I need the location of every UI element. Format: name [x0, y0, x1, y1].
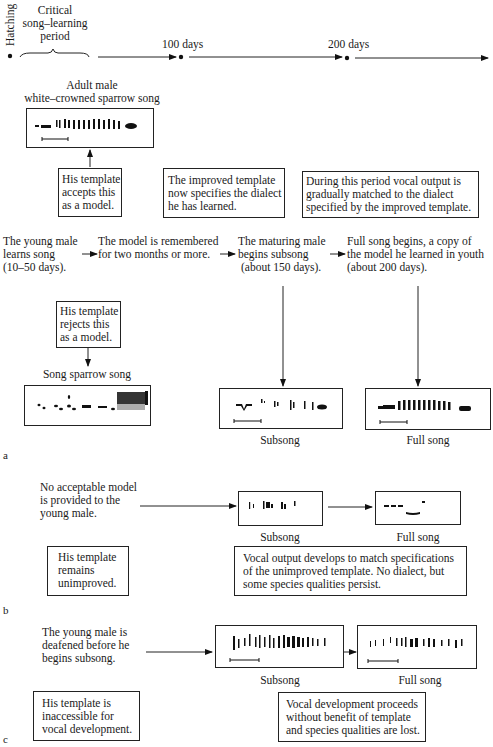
vocal-development-box-c: Vocal development proceeds without benef…	[278, 692, 426, 742]
panel-label-a: a	[3, 449, 8, 462]
fullsong-caption-c: Full song	[380, 674, 460, 687]
box-text-line: rejects this	[60, 318, 118, 331]
stage-learning: The young male learns song (10–50 days).	[3, 235, 78, 274]
adult-song-title-line: Adult male	[12, 79, 172, 92]
subsong-spectrogram-a	[219, 388, 343, 429]
fullsong-caption-b: Full song	[378, 531, 458, 544]
fullsong-caption-a: Full song	[388, 434, 468, 447]
intro-line: is provided to the	[40, 494, 137, 507]
hatching-label: Hatching	[4, 4, 17, 46]
song-sparrow-spectrogram	[24, 385, 151, 426]
song-sparrow-title: Song sparrow song	[22, 368, 152, 381]
adult-song-title-line: white–crowned sparrow song	[12, 92, 172, 105]
critical-period-line: song–learning	[20, 17, 90, 30]
stage-full-song: Full song begins, a copy of the model he…	[347, 235, 484, 274]
box-text-line: without benefit of template	[286, 711, 420, 724]
box-text-line: remains	[58, 564, 116, 577]
box-text-line: His template is	[42, 697, 132, 710]
box-text-line: of the unimproved template. No dialect, …	[243, 565, 454, 578]
box-text-line: some species qualities persist.	[243, 578, 454, 591]
box-text-line: Vocal output develops to match specifica…	[243, 552, 454, 565]
spectrogram-subsong-a	[220, 389, 342, 428]
spectrogram-fullsong-c	[358, 626, 476, 668]
stage-text-line: The young male	[3, 235, 78, 248]
stage-text-line: (10–50 days).	[3, 261, 78, 274]
intro-line: No acceptable model	[40, 481, 137, 494]
panel-c-intro: The young male is deafened before he beg…	[42, 626, 129, 665]
panel-label-c: c	[3, 733, 8, 746]
fullsong-spectrogram-c	[357, 625, 477, 669]
critical-period-line: Critical	[20, 4, 90, 17]
critical-period-line: period	[20, 30, 90, 43]
fullsong-spectrogram-a	[365, 388, 491, 430]
subsong-caption-c: Subsong	[240, 674, 320, 687]
vocal-output-box-b: Vocal output develops to match specifica…	[234, 546, 467, 596]
box-text-line: as a model.	[60, 331, 118, 344]
box-text-line: During this period vocal output is	[306, 175, 471, 188]
box-text-line: gradually matched to the dialect	[306, 188, 471, 201]
box-text-line: His template	[62, 173, 120, 186]
subsong-spectrogram-c	[215, 625, 344, 668]
intro-line: begins subsong.	[42, 652, 129, 665]
spectrogram-song-sparrow	[25, 386, 150, 425]
stage-text-line: for two months or more.	[98, 248, 218, 261]
spectrogram-fullsong-a	[366, 389, 490, 429]
improved-template-box: The improved template now specifies the …	[163, 168, 285, 218]
subsong-caption-a: Subsong	[240, 434, 320, 447]
box-text-line: and species qualities are lost.	[286, 724, 420, 737]
box-text-line: His template	[60, 305, 118, 318]
box-text-line: Vocal development proceeds	[286, 698, 420, 711]
intro-line: young male.	[40, 507, 137, 520]
stage-text-line: the model he learned in youth	[347, 248, 484, 261]
spectrogram-fullsong-b	[376, 492, 460, 524]
day-100-label: 100 days	[162, 38, 203, 51]
fullsong-spectrogram-b	[375, 491, 461, 525]
panel-label-b: b	[3, 604, 9, 617]
adult-song-spectrogram	[26, 108, 154, 148]
box-text-line: The improved template	[168, 174, 281, 187]
stage-text-line: (about 200 days).	[347, 261, 484, 274]
box-text-line: specified by the improved template.	[306, 201, 471, 214]
template-unimproved-box: His template remains unimproved.	[47, 546, 129, 596]
stage-text-line: (about 150 days).	[238, 261, 326, 274]
stage-remembered: The model is remembered for two months o…	[98, 235, 218, 261]
template-rejects-box: His template rejects this as a model.	[56, 301, 121, 348]
box-text-line: unimproved.	[58, 577, 116, 590]
spectrogram-adult	[27, 109, 153, 147]
panel-b-intro: No acceptable model is provided to the y…	[40, 481, 137, 520]
day-200-label: 200 days	[328, 38, 369, 51]
box-text-line: as a model.	[62, 199, 120, 212]
box-text-line: accepts this	[62, 186, 120, 199]
matching-period-box: During this period vocal output is gradu…	[302, 171, 479, 218]
subsong-spectrogram-b	[238, 491, 323, 526]
stage-subsong: The maturing male begins subsong (about …	[238, 235, 326, 274]
stage-text-line: begins subsong	[238, 248, 326, 261]
spectrogram-subsong-b	[239, 492, 322, 525]
box-text-line: vocal development.	[42, 723, 132, 736]
critical-period-label: Critical song–learning period	[20, 4, 90, 43]
template-inaccessible-box: His template is inaccessible for vocal d…	[33, 691, 140, 741]
template-accepts-box: His template accepts this as a model.	[58, 168, 122, 217]
box-text-line: he has learned.	[168, 200, 281, 213]
stage-text-line: The maturing male	[238, 235, 326, 248]
box-text-line: now specifies the dialect	[168, 187, 281, 200]
intro-line: deafened before he	[42, 639, 129, 652]
stage-text-line: Full song begins, a copy of	[347, 235, 484, 248]
stage-text-line: learns song	[3, 248, 78, 261]
subsong-caption-b: Subsong	[240, 531, 320, 544]
stage-text-line: The model is remembered	[98, 235, 218, 248]
box-text-line: His template	[58, 551, 116, 564]
spectrogram-subsong-c	[216, 626, 343, 667]
intro-line: The young male is	[42, 626, 129, 639]
box-text-line: inaccessible for	[42, 710, 132, 723]
adult-song-title: Adult male white–crowned sparrow song	[12, 79, 172, 105]
